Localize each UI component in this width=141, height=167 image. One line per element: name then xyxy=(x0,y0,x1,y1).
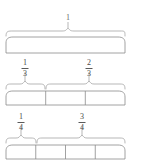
label-one-fourth-denominator: 4 xyxy=(19,124,23,132)
label-one-fourth-numerator: 1 xyxy=(19,113,23,121)
label-two-thirds: 2 3 xyxy=(86,59,93,78)
label-three-fourths: 3 4 xyxy=(79,113,86,132)
label-one-third: 1 3 xyxy=(22,59,29,78)
label-whole: 1 xyxy=(66,14,70,22)
diagram-canvas xyxy=(0,0,141,167)
bar-whole xyxy=(6,37,125,53)
label-one-third-denominator: 3 xyxy=(23,70,27,78)
label-two-thirds-numerator: 2 xyxy=(87,59,91,67)
label-one-fourth: 1 4 xyxy=(18,113,25,132)
label-one-third-numerator: 1 xyxy=(23,59,27,67)
brace-whole xyxy=(6,28,125,36)
brace-two-thirds xyxy=(46,81,125,89)
label-three-fourths-denominator: 4 xyxy=(80,124,84,132)
brace-one-third xyxy=(6,81,45,89)
brace-three-fourths xyxy=(37,135,125,143)
label-two-thirds-denominator: 3 xyxy=(87,70,91,78)
label-three-fourths-numerator: 3 xyxy=(80,113,84,121)
fraction-bars-diagram: 1 1 3 2 3 1 4 3 4 xyxy=(0,0,141,167)
bar-thirds xyxy=(6,91,125,105)
brace-one-fourth xyxy=(6,135,36,143)
row-whole xyxy=(6,22,125,53)
